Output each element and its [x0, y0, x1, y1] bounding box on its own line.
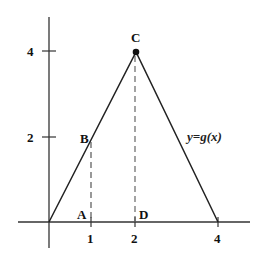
graph-canvas: 4 2 1 2 4 C B A D y=g(x): [0, 0, 263, 258]
x-tick-label-4: 4: [214, 231, 221, 246]
function-label: y=g(x): [185, 129, 222, 144]
y-tick-label-2: 2: [27, 130, 34, 145]
point-label-A: A: [77, 207, 87, 222]
point-label-B: B: [80, 131, 89, 146]
x-tick-label-2: 2: [131, 231, 138, 246]
point-C-marker: [133, 49, 140, 56]
point-label-D: D: [139, 207, 148, 222]
point-label-C: C: [131, 30, 140, 45]
triangle-function-graph: 4 2 1 2 4 C B A D y=g(x): [0, 0, 263, 258]
x-tick-label-1: 1: [87, 231, 94, 246]
y-tick-label-4: 4: [27, 44, 34, 59]
